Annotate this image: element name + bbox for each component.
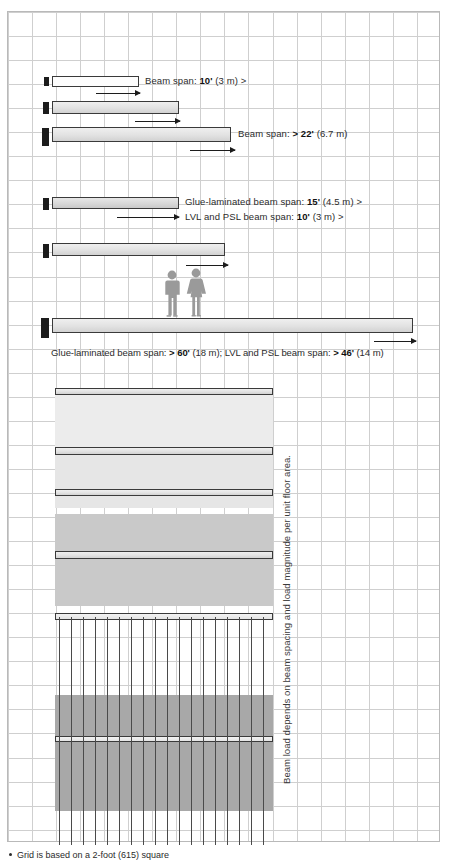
joist-member (131, 617, 132, 845)
joist-framing-panel (0, 0, 449, 860)
joist-member (167, 617, 168, 845)
footnote-text: Grid is based on a 2-foot (615) square (17, 850, 169, 860)
figure-canvas: Beam span: 10' (3 m) > Beam span: > 22' … (0, 0, 449, 860)
joist-member (227, 617, 228, 845)
joist-member (263, 617, 264, 845)
joist-member (83, 617, 84, 845)
joist-member (143, 617, 144, 845)
joist-member (95, 617, 96, 845)
footnote-bullet-icon (9, 853, 12, 856)
joist-member (251, 617, 252, 845)
joist-member (71, 617, 72, 845)
joist-member (119, 617, 120, 845)
joist-deck-beam-mid (55, 736, 273, 742)
joist-deck-beam-top (55, 613, 273, 620)
joist-member (59, 617, 60, 845)
joist-member (107, 617, 108, 845)
joist-member (155, 617, 156, 845)
joist-member (215, 617, 216, 845)
vertical-load-note: Beam load depends on beam spacing and lo… (281, 404, 292, 784)
joist-member (239, 617, 240, 845)
joist-member (179, 617, 180, 845)
joist-member (203, 617, 204, 845)
joist-member (191, 617, 192, 845)
figure-footnote: Grid is based on a 2-foot (615) square (7, 850, 169, 860)
